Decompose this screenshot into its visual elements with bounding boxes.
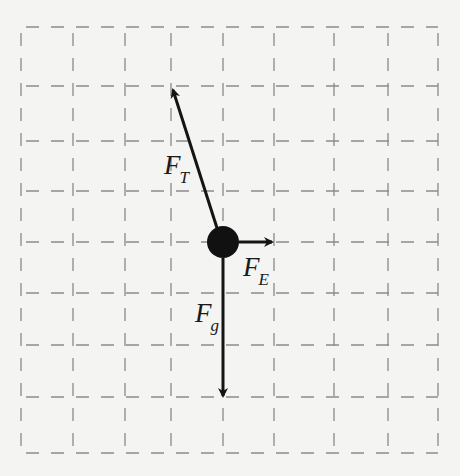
- gravity-force-label: Fg: [195, 300, 220, 327]
- charged-ball: [207, 226, 239, 258]
- gravity-subscript: g: [211, 316, 220, 335]
- tension-symbol: F: [164, 150, 181, 180]
- electric-subscript: E: [259, 270, 269, 289]
- gravity-symbol: F: [195, 298, 212, 328]
- free-body-diagram: [0, 0, 460, 476]
- tension-force-label: FT: [164, 152, 190, 179]
- electric-symbol: F: [243, 252, 260, 282]
- tension-subscript: T: [180, 168, 189, 187]
- electric-force-label: FE: [243, 254, 270, 281]
